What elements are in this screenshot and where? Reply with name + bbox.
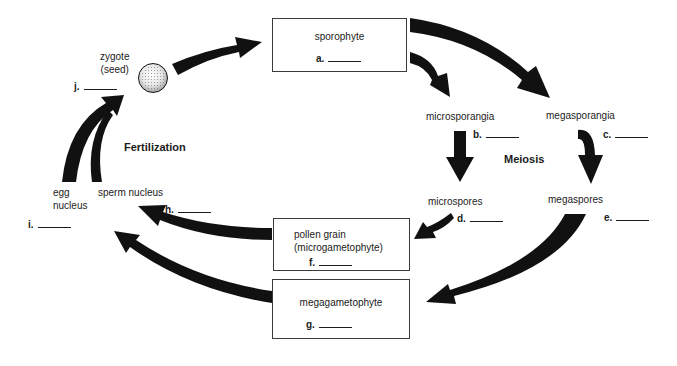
egg-nucleus-label: egg nucleus [53, 186, 87, 212]
arrow-megaspores-to-megagametophyte [426, 214, 586, 304]
blank-h-line[interactable] [178, 211, 211, 213]
microspores-label: microspores [428, 195, 482, 208]
blank-g[interactable]: g. [306, 319, 352, 330]
blank-i[interactable]: i. [28, 219, 71, 230]
blank-g-letter: g. [306, 319, 315, 330]
arrow-megagametophyte-to-egg [114, 231, 272, 303]
pollen-grain-box: pollen grain (microgametophyte) f. [273, 218, 410, 271]
blank-f[interactable]: f. [309, 257, 352, 268]
blank-h[interactable]: h. [165, 204, 211, 215]
blank-e[interactable]: e. [604, 212, 649, 223]
blank-f-letter: f. [309, 257, 315, 268]
blank-c-letter: c. [603, 129, 611, 140]
megagametophyte-box: megagametophyte g. [272, 279, 410, 339]
blank-j-letter: j. [74, 81, 80, 92]
megaspores-label: megaspores [548, 193, 603, 206]
blank-f-line[interactable] [319, 264, 352, 266]
zygote-label-line1: zygote [100, 50, 129, 63]
blank-b-line[interactable] [486, 136, 519, 138]
egg-nucleus-line1: egg [53, 186, 87, 199]
zygote-label: zygote (seed) [100, 50, 129, 76]
blank-e-letter: e. [604, 212, 612, 223]
blank-c[interactable]: c. [603, 129, 648, 140]
blank-i-letter: i. [28, 219, 34, 230]
blank-a-line[interactable] [328, 60, 361, 62]
meiosis-label: Meiosis [504, 153, 544, 166]
microsporangia-label: microsporangia [426, 110, 494, 123]
arrow-megasporangia-to-megaspores [578, 130, 603, 184]
blank-j[interactable]: j. [74, 81, 117, 92]
megagametophyte-label: megagametophyte [273, 296, 409, 309]
blank-j-line[interactable] [84, 88, 117, 90]
sporophyte-box: sporophyte a. [272, 18, 407, 72]
blank-b[interactable]: b. [473, 129, 519, 140]
fertilization-label: Fertilization [124, 141, 186, 154]
blank-d-letter: d. [457, 213, 466, 224]
egg-nucleus-line2: nucleus [53, 199, 87, 212]
blank-g-line[interactable] [319, 326, 352, 328]
arrow-sporophyte-to-megasporangia [410, 18, 550, 98]
zygote-label-line2: (seed) [100, 63, 129, 76]
blank-d-line[interactable] [470, 220, 503, 222]
blank-h-letter: h. [165, 204, 174, 215]
arrow-sporophyte-to-microsporangia [410, 52, 450, 97]
sperm-nucleus-label: sperm nucleus [98, 186, 163, 199]
blank-e-line[interactable] [616, 219, 649, 221]
arrow-zygote-to-sporophyte [172, 37, 262, 75]
blank-b-letter: b. [473, 129, 482, 140]
blank-a[interactable]: a. [316, 53, 361, 64]
zygote-seed-icon [138, 63, 168, 93]
blank-a-letter: a. [316, 53, 324, 64]
sporophyte-label: sporophyte [273, 30, 406, 43]
pollen-grain-label: pollen grain [294, 228, 409, 241]
arrow-microspores-to-pollen [414, 213, 454, 239]
blank-i-line[interactable] [38, 226, 71, 228]
blank-d[interactable]: d. [457, 213, 503, 224]
arrow-microsporangia-to-microspores [446, 131, 474, 182]
blank-c-line[interactable] [615, 136, 648, 138]
microgametophyte-label: (microgametophyte) [294, 241, 409, 254]
megasporangia-label: megasporangia [546, 109, 615, 122]
